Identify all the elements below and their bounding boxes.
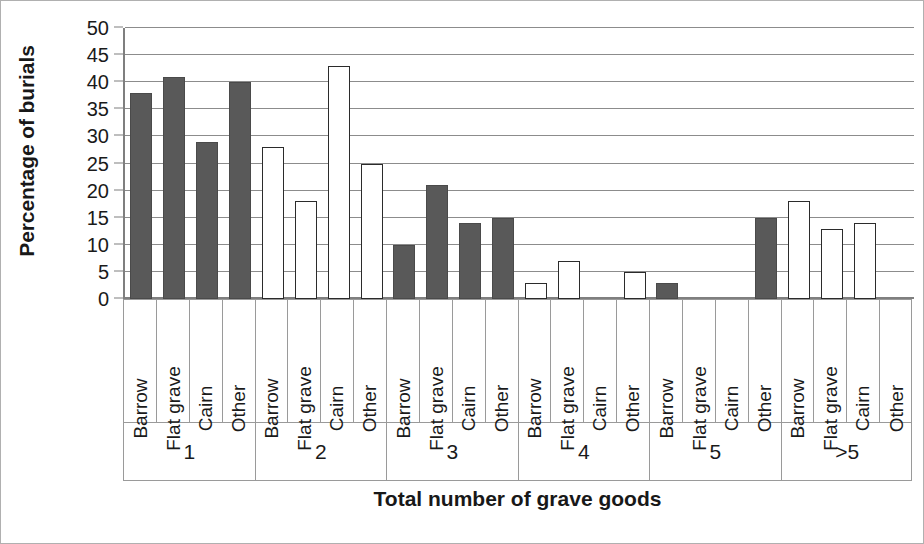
category-label-cell: Cairn (584, 300, 617, 422)
chart-container: Percentage of burials 051015202530354045… (0, 0, 924, 544)
y-axis-ticks: 05101520253035404550 (49, 28, 123, 299)
bar-1-other (229, 82, 251, 299)
category-label-cell: Cairn (453, 300, 486, 422)
bar-1-flat-grave (163, 77, 185, 299)
category-label-cell: Cairn (847, 300, 880, 422)
category-label-cell: Other (880, 300, 913, 422)
category-label-cell: Other (354, 300, 387, 422)
group-label-text: 3 (446, 440, 458, 464)
y-tick-mark-30 (114, 135, 123, 136)
y-tick-label-10: 10 (87, 235, 109, 255)
category-label-cell: Other (223, 300, 256, 422)
category-label-cell: Barrow (256, 300, 289, 422)
plot-area (123, 28, 914, 299)
category-label-cell: Other (749, 300, 782, 422)
category-label-cell: Cairn (321, 300, 354, 422)
y-tick-label-30: 30 (87, 126, 109, 146)
bar-3-flat-grave (426, 185, 448, 299)
y-tick-mark-45 (114, 54, 123, 55)
bar-4-barrow (525, 283, 547, 299)
bar-1-barrow (130, 93, 152, 299)
category-label-cell: Other (617, 300, 650, 422)
category-label-cell: Flat grave (814, 300, 847, 422)
group-label-text: 1 (183, 440, 195, 464)
y-tick-label-25: 25 (87, 154, 109, 174)
category-label-cell: Flat grave (683, 300, 716, 422)
bar-gt5-flat-grave (821, 229, 843, 299)
bar-2-cairn (328, 66, 350, 299)
bar-1-cairn (196, 142, 218, 299)
category-label-cell: Other (486, 300, 519, 422)
group-label-cell-2: 2 (256, 423, 388, 480)
y-tick-mark-20 (114, 189, 123, 190)
group-label-cell-3: 3 (387, 423, 519, 480)
group-label-cell-4: 4 (519, 423, 651, 480)
category-label-cell: Cairn (190, 300, 223, 422)
category-label-cell: Flat grave (157, 300, 190, 422)
category-label-cell: Barrow (124, 300, 157, 422)
y-tick-mark-5 (114, 270, 123, 271)
category-label-cell: Cairn (716, 300, 749, 422)
category-label-cell: Barrow (650, 300, 683, 422)
bars-layer (125, 28, 914, 299)
category-label-cell: Barrow (387, 300, 420, 422)
group-label-text: 5 (709, 440, 721, 464)
group-label-text: 4 (578, 440, 590, 464)
category-axis-labels: BarrowFlat graveCairnOtherBarrowFlat gra… (123, 299, 912, 423)
group-label-cell-5: 5 (650, 423, 782, 480)
y-tick-mark-10 (114, 243, 123, 244)
bar-2-barrow (262, 147, 284, 299)
y-tick-mark-50 (114, 27, 123, 28)
y-tick-label-45: 45 (87, 45, 109, 65)
group-axis-labels: 12345>5 (123, 423, 912, 481)
y-tick-mark-15 (114, 216, 123, 217)
bar-4-other (624, 272, 646, 299)
y-tick-label-5: 5 (98, 262, 109, 282)
y-axis-title-label: Percentage of burials (15, 45, 39, 256)
y-tick-mark-25 (114, 162, 123, 163)
category-label-cell: Barrow (519, 300, 552, 422)
y-tick-label-15: 15 (87, 208, 109, 228)
group-label-cell-gt5: >5 (782, 423, 914, 480)
bar-gt5-cairn (854, 223, 876, 299)
bar-2-flat-grave (295, 201, 317, 299)
y-tick-label-35: 35 (87, 99, 109, 119)
y-tick-mark-40 (114, 81, 123, 82)
category-label-cell: Barrow (782, 300, 815, 422)
y-axis-title: Percentage of burials (7, 1, 47, 301)
category-label-cell: Flat grave (288, 300, 321, 422)
bar-5-barrow (656, 283, 678, 299)
bar-3-other (492, 218, 514, 299)
group-label-text: 2 (315, 440, 327, 464)
bar-3-cairn (459, 223, 481, 299)
category-label-cell: Flat grave (551, 300, 584, 422)
category-label-cell: Flat grave (420, 300, 453, 422)
bar-4-flat-grave (558, 261, 580, 299)
y-tick-mark-35 (114, 108, 123, 109)
y-tick-label-0: 0 (98, 289, 109, 309)
bar-gt5-barrow (788, 201, 810, 299)
x-axis-title: Total number of grave goods (123, 487, 912, 511)
group-label-text: >5 (835, 440, 859, 464)
y-tick-mark-0 (114, 298, 123, 299)
bar-2-other (361, 164, 383, 300)
y-tick-label-50: 50 (87, 18, 109, 38)
y-tick-label-20: 20 (87, 181, 109, 201)
bar-3-barrow (393, 245, 415, 299)
group-label-cell-1: 1 (124, 423, 256, 480)
bar-5-other (755, 218, 777, 299)
y-tick-label-40: 40 (87, 72, 109, 92)
